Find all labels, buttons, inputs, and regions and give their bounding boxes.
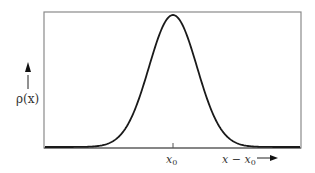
gaussian-diagram: x0 x − x0 ρ(x) <box>0 0 315 173</box>
gaussian-curve <box>45 15 300 147</box>
x0-tick-label: x0 <box>166 153 177 167</box>
x-axis-arrow-icon <box>257 155 278 161</box>
plot-frame <box>44 12 301 148</box>
x-axis-label: x − x0 <box>222 153 256 167</box>
y-axis-arrow-icon <box>25 62 31 89</box>
y-axis-label: ρ(x) <box>16 92 39 106</box>
